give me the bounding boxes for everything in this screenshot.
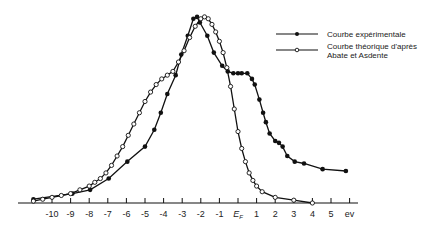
- theoretical-point: [126, 133, 130, 137]
- x-axis: -10-9-8-7-6-5-4-3-2-1EF12345ev: [18, 198, 358, 220]
- experimental-point: [252, 82, 257, 87]
- x-tick-label: -10: [45, 209, 58, 219]
- theoretical-point: [137, 111, 141, 115]
- experimental-point: [239, 71, 244, 76]
- theoretical-point: [121, 145, 125, 149]
- theoretical-point: [214, 30, 218, 34]
- x-tick-label: -7: [104, 209, 112, 219]
- x-tick-label: -8: [85, 209, 93, 219]
- x-tick-label: 1: [254, 209, 259, 219]
- x-tick-label: 3: [291, 209, 296, 219]
- x-tick-label: -1: [215, 209, 223, 219]
- theoretical-point: [165, 73, 169, 77]
- theoretical-point: [176, 60, 180, 64]
- experimental-point: [212, 50, 217, 55]
- theoretical-point: [188, 35, 192, 39]
- theoretical-point: [50, 195, 54, 199]
- legend-label-theoretical-1: Courbe théorique d'après: [327, 42, 417, 51]
- x-tick-label: EF: [233, 209, 243, 220]
- experimental-point: [250, 77, 255, 82]
- theoretical-point: [171, 69, 175, 73]
- x-tick-label: -3: [178, 209, 186, 219]
- x-tick-label: -6: [122, 209, 130, 219]
- theoretical-point: [206, 17, 210, 21]
- experimental-point: [152, 127, 157, 132]
- theoretical-point: [228, 84, 232, 88]
- theoretical-point: [69, 192, 73, 196]
- theoretical-point: [251, 178, 255, 182]
- theoretical-point: [87, 184, 91, 188]
- plot-area: [31, 15, 348, 206]
- theoretical-point: [143, 99, 147, 103]
- experimental-point: [125, 159, 130, 164]
- theoretical-point: [292, 198, 296, 202]
- experimental-point: [106, 176, 111, 181]
- theoretical-point: [59, 193, 63, 197]
- theoretical-point: [240, 146, 244, 150]
- theoretical-point: [217, 39, 221, 43]
- x-tick-label: -4: [160, 209, 168, 219]
- x-tick-label: -5: [141, 209, 149, 219]
- theoretical-point: [225, 66, 229, 70]
- theoretical-point: [310, 201, 314, 205]
- experimental-point: [165, 92, 170, 97]
- filled-dot-icon: [295, 32, 299, 36]
- x-tick-label: -2: [197, 209, 205, 219]
- experimental-point: [159, 110, 164, 115]
- theoretical-point: [232, 107, 236, 111]
- x-tick-label: 4: [310, 209, 315, 219]
- x-tick-label: ev: [345, 209, 355, 219]
- theoretical-curve: [33, 17, 312, 203]
- legend-label-experimental: Courbe expérimentale: [327, 30, 406, 39]
- theoretical-point: [260, 190, 264, 194]
- theoretical-point: [255, 184, 259, 188]
- theoretical-point: [154, 82, 158, 86]
- theoretical-point: [247, 171, 251, 175]
- x-tick-label: 2: [273, 209, 278, 219]
- experimental-curve: [33, 17, 346, 199]
- x-tick-label: -9: [67, 209, 75, 219]
- legend-label-theoretical-2: Abate et Asdente: [327, 51, 388, 60]
- legend-item-experimental: Courbe expérimentale: [276, 30, 406, 39]
- experimental-point: [245, 71, 250, 76]
- experimental-point: [257, 97, 262, 102]
- theoretical-point: [243, 160, 247, 164]
- experimental-point: [292, 159, 297, 164]
- experimental-point: [277, 141, 282, 146]
- theoretical-point: [98, 176, 102, 180]
- experimental-point: [280, 144, 285, 149]
- theoretical-point: [193, 24, 197, 28]
- legend-item-theoretical: Courbe théorique d'après Abate et Asdent…: [276, 42, 417, 60]
- experimental-point: [302, 161, 307, 166]
- experimental-point: [220, 63, 225, 68]
- experimental-point: [267, 131, 272, 136]
- theoretical-point: [104, 171, 108, 175]
- experimental-point: [205, 33, 210, 38]
- theoretical-point: [132, 122, 136, 126]
- open-dot-icon: [295, 48, 299, 52]
- theoretical-point: [109, 163, 113, 167]
- experimental-point: [320, 167, 325, 172]
- experimental-point: [143, 144, 148, 149]
- experimental-point: [264, 120, 269, 125]
- theoretical-point: [93, 180, 97, 184]
- experimental-point: [231, 71, 236, 76]
- x-tick-label: 5: [328, 209, 333, 219]
- experimental-point: [261, 110, 266, 115]
- theoretical-point: [148, 90, 152, 94]
- experimental-point: [285, 154, 290, 159]
- theoretical-point: [160, 77, 164, 81]
- theoretical-point: [31, 199, 35, 203]
- theoretical-point: [41, 197, 45, 201]
- spectrum-chart: -10-9-8-7-6-5-4-3-2-1EF12345ev Courbe ex…: [0, 0, 437, 225]
- theoretical-point: [210, 22, 214, 26]
- legend: Courbe expérimentale Courbe théorique d'…: [276, 30, 417, 60]
- theoretical-point: [78, 188, 82, 192]
- experimental-point: [344, 169, 349, 174]
- theoretical-point: [221, 51, 225, 55]
- theoretical-point: [115, 154, 119, 158]
- theoretical-point: [236, 129, 240, 133]
- theoretical-point: [273, 195, 277, 199]
- theoretical-point: [182, 49, 186, 53]
